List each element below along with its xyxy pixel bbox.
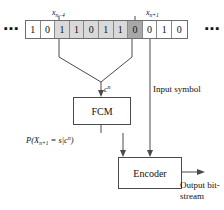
encoder-box: Encoder bbox=[118, 157, 182, 189]
v-right-diagonal bbox=[101, 57, 132, 82]
probability-mid: = s|c bbox=[48, 135, 67, 145]
diagram-canvas: ▪▪▪ 10110110010 ▪▪▪ xn−4 xn+1 bbox=[0, 0, 224, 210]
prob-arrow-head bbox=[120, 150, 126, 157]
input-symbol-label: Input symbol bbox=[152, 84, 202, 95]
fcm-box: FCM bbox=[73, 97, 131, 125]
context-label-sup: n bbox=[108, 84, 111, 90]
v-left-diagonal bbox=[59, 57, 101, 82]
probability-open: P(X bbox=[26, 135, 39, 145]
fcm-box-label: FCM bbox=[91, 106, 112, 117]
output-bitstream-label: Output bit-stream bbox=[180, 180, 224, 202]
probability-label: P(Xn+1 = s|cn) bbox=[26, 133, 74, 149]
output-arrow-head bbox=[197, 169, 205, 175]
probability-close: ) bbox=[71, 135, 74, 145]
encoder-box-label: Encoder bbox=[133, 168, 166, 179]
input-symbol-arrow-head bbox=[147, 150, 153, 157]
context-label: cn bbox=[104, 82, 111, 95]
